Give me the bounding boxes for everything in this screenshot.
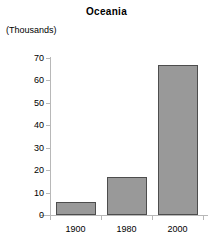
x-axis-label-1900: 1900: [65, 224, 85, 234]
x-axis-tick-mark: [203, 215, 204, 220]
y-axis-tick-label: 40: [34, 120, 44, 130]
x-axis-tick-mark: [50, 215, 51, 220]
x-axis-label-2000: 2000: [167, 224, 187, 234]
y-axis-tick-label: 20: [34, 165, 44, 175]
y-axis-tick-mark: [46, 80, 50, 81]
x-axis-label-1980: 1980: [116, 224, 136, 234]
x-axis-tick-mark: [101, 215, 102, 220]
x-axis-line: [40, 215, 208, 216]
plot-area: 010203040506070: [50, 58, 203, 215]
bar-1980: [107, 177, 147, 215]
x-axis-tick-mark: [152, 215, 153, 220]
y-axis-tick-label: 30: [34, 143, 44, 153]
bar-1900: [56, 202, 96, 215]
y-axis-tick-label: 10: [34, 188, 44, 198]
bar-chart-figure: Oceania (Thousands) 010203040506070 1900…: [0, 0, 213, 245]
y-axis-tick-label: 70: [34, 53, 44, 63]
bar-2000: [158, 65, 198, 215]
y-axis-unit-label: (Thousands): [6, 25, 57, 35]
y-axis-tick-label: 60: [34, 75, 44, 85]
y-axis-tick-mark: [46, 103, 50, 104]
chart-title: Oceania: [0, 6, 213, 17]
y-axis-tick-mark: [46, 170, 50, 171]
y-axis-tick-label: 0: [39, 210, 44, 220]
y-axis-tick-mark: [46, 125, 50, 126]
y-axis-tick-mark: [46, 148, 50, 149]
y-axis-tick-label: 50: [34, 98, 44, 108]
y-axis-tick-mark: [46, 58, 50, 59]
y-axis-tick-mark: [46, 193, 50, 194]
